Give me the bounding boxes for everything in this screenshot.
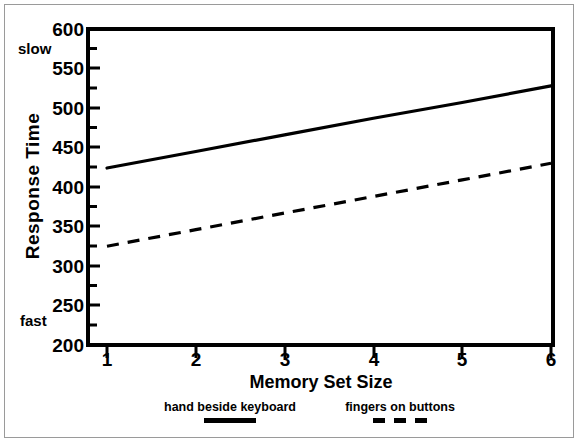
legend-swatch-dashed-line xyxy=(373,418,427,423)
legend-dash-segment xyxy=(415,418,427,423)
y-axis-title: Response Time xyxy=(22,106,44,266)
x-tick-label: 6 xyxy=(536,350,566,369)
x-tick-label: 1 xyxy=(92,350,122,369)
legend-swatch-solid-line xyxy=(204,418,256,423)
x-axis-tick-labels: 1 2 3 4 5 6 xyxy=(0,350,580,374)
y-tick-label: 600 xyxy=(36,20,84,39)
x-tick-label: 2 xyxy=(181,350,211,369)
annotation-slow: slow xyxy=(18,40,51,57)
axis-lines xyxy=(88,29,553,345)
chart-figure: 600 550 500 450 400 350 300 250 200 1 2 … xyxy=(0,0,580,444)
annotation-fast: fast xyxy=(20,312,47,329)
legend-dash-segment xyxy=(373,418,385,423)
series-line-fingers-on-buttons xyxy=(107,163,551,246)
x-tick-label: 5 xyxy=(447,350,477,369)
x-tick-label: 4 xyxy=(359,350,389,369)
legend-label: fingers on buttons xyxy=(320,400,480,414)
legend-label: hand beside keyboard xyxy=(150,400,310,414)
x-axis-title: Memory Set Size xyxy=(88,372,554,393)
series-line-hand-beside-keyboard xyxy=(107,86,551,168)
legend-item-hand-beside-keyboard: hand beside keyboard xyxy=(150,400,310,423)
legend-item-fingers-on-buttons: fingers on buttons xyxy=(320,400,480,423)
y-tick-label: 550 xyxy=(36,59,84,78)
x-tick-label: 3 xyxy=(270,350,300,369)
legend-dash-segment xyxy=(394,418,406,423)
chart-legend: hand beside keyboard fingers on buttons xyxy=(150,400,480,436)
